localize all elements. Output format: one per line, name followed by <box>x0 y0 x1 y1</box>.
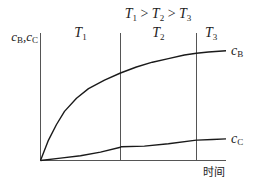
x-axis-label: 时间 <box>203 166 225 179</box>
series-line-cC <box>41 139 227 161</box>
y-axis-label: cB,cC <box>11 29 38 45</box>
region-label-T1: T1 <box>74 25 86 42</box>
series-label-cC: cC <box>231 131 243 147</box>
series-line-cB <box>41 51 227 161</box>
series-label-cB: cB <box>231 43 243 59</box>
region-label-T3: T3 <box>205 25 218 42</box>
region-label-T2: T2 <box>152 25 164 42</box>
chart: T1 > T2 > T3 cB,cC 时间 T1T2T3 cBcC <box>0 0 277 180</box>
chart-title: T1 > T2 > T3 <box>125 6 192 23</box>
